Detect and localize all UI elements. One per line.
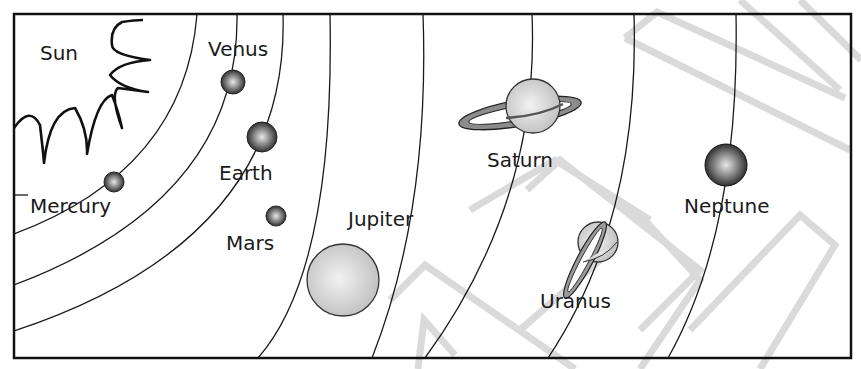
venus-label: Venus: [208, 37, 268, 61]
uranus-label: Uranus: [540, 289, 611, 313]
mars-planet: [266, 206, 286, 226]
saturn-label: Saturn: [487, 148, 553, 172]
mercury-label: Mercury: [30, 194, 111, 218]
neptune-label: Neptune: [684, 194, 769, 218]
venus-planet: [221, 70, 245, 94]
sun-label: Sun: [40, 41, 78, 65]
mercury-planet: [104, 172, 124, 192]
neptune-planet: [705, 144, 747, 186]
earth-label: Earth: [219, 161, 273, 185]
solar-system-diagram: Sun Venus Earth Mercury Mars Jupiter Sat…: [0, 0, 861, 369]
mars-label: Mars: [226, 231, 274, 255]
earth-planet: [247, 122, 277, 152]
jupiter-planet: [307, 244, 379, 316]
jupiter-label: Jupiter: [346, 207, 414, 231]
